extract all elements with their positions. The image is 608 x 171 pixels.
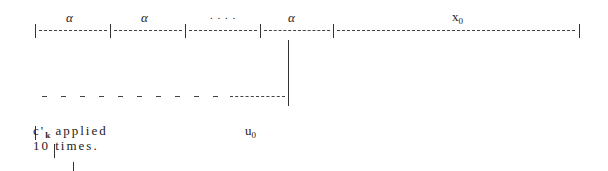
ellipsis-label: . . . . [210, 9, 236, 21]
dash-segment [114, 30, 182, 31]
dash [42, 96, 47, 97]
tick [333, 24, 334, 38]
caption-line-2: 10 times. [33, 138, 99, 154]
u-subscript: 0 [252, 130, 257, 140]
u0-label: u0 [245, 123, 256, 140]
dash [99, 96, 104, 97]
dash-segment [230, 96, 285, 97]
dash [156, 96, 161, 97]
tick [110, 24, 111, 38]
applied-text: applied [50, 123, 108, 138]
dash [80, 96, 85, 97]
dash [137, 96, 142, 97]
c-prime: c' [33, 123, 45, 138]
tick [260, 24, 261, 38]
tick [35, 24, 36, 38]
dash [61, 96, 66, 97]
dash-segment [264, 30, 330, 31]
dash-segment [39, 30, 107, 31]
dash [213, 96, 218, 97]
tick [185, 24, 186, 38]
dash [118, 96, 123, 97]
dash [194, 96, 199, 97]
bottom-row [35, 90, 290, 104]
dash [175, 96, 180, 97]
tick [73, 162, 74, 171]
top-row [35, 24, 580, 38]
tick [579, 24, 580, 38]
dash-segment [189, 30, 257, 31]
dash-segment [337, 30, 575, 31]
